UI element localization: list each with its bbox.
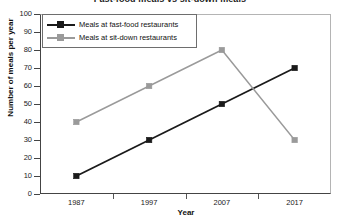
data-point-marker: [219, 47, 224, 52]
data-point-marker: [146, 83, 151, 88]
data-point-marker: [292, 65, 297, 70]
legend-label-sit-down: Meals at sit-down restaurants: [79, 33, 177, 42]
chart-legend: Meals at fast-food restaurants Meals at …: [42, 14, 197, 48]
series-line: [76, 50, 294, 140]
series-line: [76, 68, 294, 176]
legend-item-sit-down: Meals at sit-down restaurants: [47, 31, 192, 44]
x-axis-title: Year: [40, 208, 332, 215]
data-point-marker: [219, 101, 224, 106]
chart-container: Fast-food meals vs sit-down meals Number…: [0, 0, 340, 215]
data-point-marker: [74, 173, 79, 178]
data-point-marker: [292, 137, 297, 142]
data-point-marker: [74, 119, 79, 124]
legend-swatch-fast-food: [47, 19, 75, 30]
legend-label-fast-food: Meals at fast-food restaurants: [79, 20, 178, 29]
data-point-marker: [146, 137, 151, 142]
legend-swatch-sit-down: [47, 32, 75, 43]
legend-item-fast-food: Meals at fast-food restaurants: [47, 18, 192, 31]
